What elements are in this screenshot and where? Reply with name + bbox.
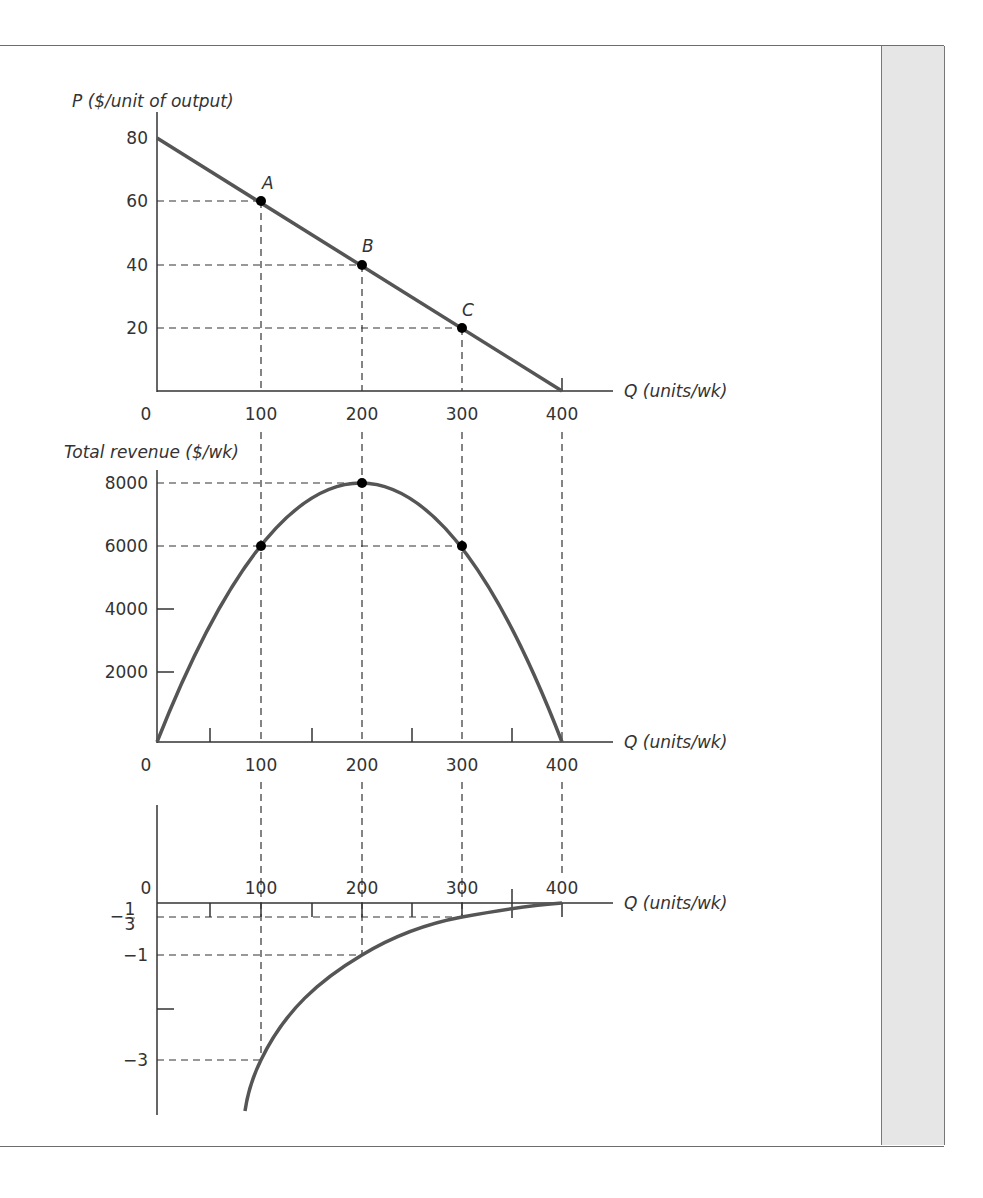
demand-xtick-200: 200 xyxy=(346,404,378,424)
chart-figure: P ($/unit of output) 80 60 40 20 0 100 2… xyxy=(0,0,983,1198)
revenue-point-100 xyxy=(256,541,266,551)
elasticity-ytick-minus-1: −1 xyxy=(123,945,148,965)
elasticity-chart: 0 100 200 300 400 Q (units/wk) − 1 3 −1 … xyxy=(110,805,728,1115)
demand-y-axis-label: P ($/unit of output) xyxy=(72,91,234,111)
demand-x-axis-label: Q (units/wk) xyxy=(624,381,727,401)
revenue-ytick-4000: 4000 xyxy=(105,599,148,619)
demand-ytick-40: 40 xyxy=(126,255,148,275)
revenue-x-axis-label: Q (units/wk) xyxy=(624,732,727,752)
revenue-ytick-6000: 6000 xyxy=(105,536,148,556)
demand-xtick-100: 100 xyxy=(245,404,277,424)
elasticity-xtick-400: 400 xyxy=(546,878,578,898)
elasticity-ytick-minus-third: − 1 3 xyxy=(110,899,136,934)
demand-xtick-400: 400 xyxy=(546,404,578,424)
svg-text:3: 3 xyxy=(125,914,136,934)
total-revenue-chart: Total revenue ($/wk) 8000 6000 4000 2000… xyxy=(64,442,727,775)
point-b xyxy=(357,260,367,270)
point-a-label: A xyxy=(261,173,274,193)
elasticity-ytick-minus-3: −3 xyxy=(123,1050,148,1070)
revenue-xtick-0: 0 xyxy=(141,755,152,775)
revenue-y-axis-label: Total revenue ($/wk) xyxy=(64,442,239,462)
svg-text:−: − xyxy=(110,906,124,926)
demand-xtick-300: 300 xyxy=(446,404,478,424)
point-a xyxy=(256,196,266,206)
elasticity-x-axis-label: Q (units/wk) xyxy=(624,893,727,913)
revenue-guides xyxy=(157,483,462,546)
elasticity-xtick-300: 300 xyxy=(446,878,478,898)
revenue-xtick-200: 200 xyxy=(346,755,378,775)
demand-ytick-60: 60 xyxy=(126,191,148,211)
revenue-ytick-2000: 2000 xyxy=(105,662,148,682)
elasticity-ytick-0: 0 xyxy=(141,878,152,898)
connector-guides xyxy=(261,432,562,1060)
point-c-label: C xyxy=(462,300,474,320)
demand-chart: P ($/unit of output) 80 60 40 20 0 100 2… xyxy=(72,91,727,424)
elasticity-xtick-200: 200 xyxy=(346,878,378,898)
revenue-xtick-400: 400 xyxy=(546,755,578,775)
revenue-point-200 xyxy=(357,478,367,488)
elasticity-curve xyxy=(245,903,562,1111)
revenue-xtick-300: 300 xyxy=(446,755,478,775)
elasticity-xtick-100: 100 xyxy=(245,878,277,898)
demand-ytick-80: 80 xyxy=(126,128,148,148)
revenue-point-300 xyxy=(457,541,467,551)
demand-ytick-20: 20 xyxy=(126,318,148,338)
revenue-xtick-100: 100 xyxy=(245,755,277,775)
revenue-ytick-8000: 8000 xyxy=(105,473,148,493)
point-b-label: B xyxy=(362,236,374,256)
point-c xyxy=(457,323,467,333)
demand-guides xyxy=(157,201,462,391)
demand-xtick-0: 0 xyxy=(141,404,152,424)
total-revenue-curve xyxy=(157,483,562,742)
elasticity-guides xyxy=(157,917,462,1060)
